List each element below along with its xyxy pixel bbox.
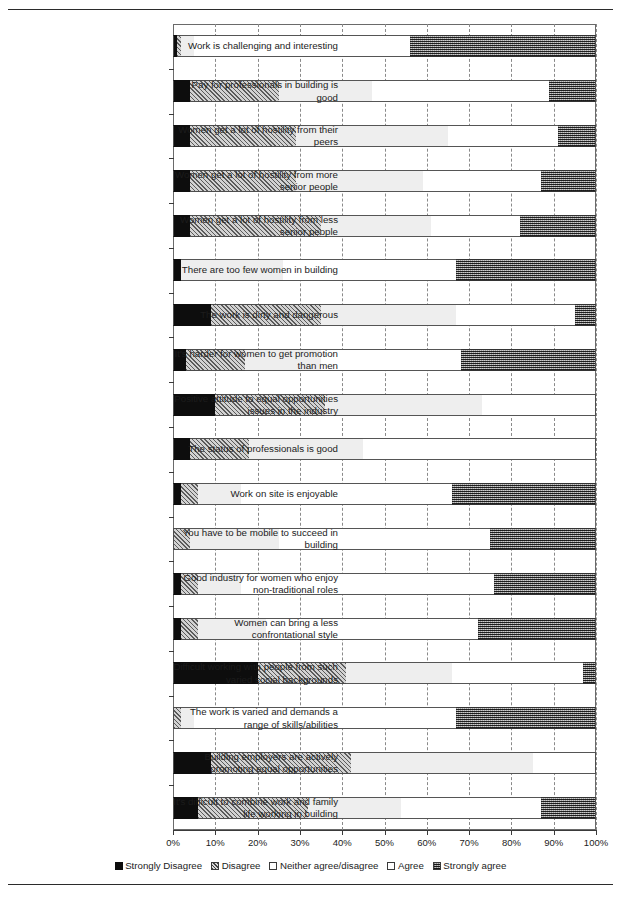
bar-segment-sa [478, 618, 596, 640]
y-axis-tick [169, 248, 174, 249]
legend-label: Strongly agree [443, 860, 506, 871]
legend-label: Agree [398, 860, 424, 871]
legend-item: Strongly Disagree [115, 860, 203, 871]
x-axis-tick [215, 830, 216, 835]
bar-segment-nt [351, 752, 533, 774]
bar-segment-sa [583, 662, 596, 684]
x-axis-tick [300, 830, 301, 835]
x-axis-tick-label: 100% [584, 837, 608, 848]
legend-item: Neither agree/disagree [269, 860, 378, 871]
y-axis-tick [169, 114, 174, 115]
legend-item: Agree [387, 860, 423, 871]
bar-segment-sa [558, 125, 596, 147]
x-axis-tick [427, 830, 428, 835]
category-label: Women get a lot of hostility from their … [173, 123, 338, 148]
stacked-bar-chart: 0%10%20%30%40%50%60%70%80%90%100% Work i… [173, 24, 596, 830]
bar-segment-sa [490, 528, 596, 550]
y-axis-tick [169, 158, 174, 159]
bar-segment-sa [549, 80, 596, 102]
bar-segment-sa [541, 170, 596, 192]
category-label: It's harder for women to get promotion t… [173, 347, 338, 372]
x-axis-tick [258, 830, 259, 835]
y-axis-tick [169, 293, 174, 294]
bar-segment-nt [346, 662, 452, 684]
x-axis-tick-label: 0% [166, 837, 180, 848]
bar-segment-sa [575, 304, 596, 326]
x-axis-tick-label: 50% [375, 837, 394, 848]
category-label: Good industry for women who enjoy non-tr… [173, 571, 338, 596]
x-axis-tick [173, 830, 174, 835]
bar-segment-ag [482, 394, 596, 416]
x-axis-tick [469, 830, 470, 835]
x-axis-tick-label: 40% [333, 837, 352, 848]
legend-item: Disagree [211, 860, 260, 871]
y-axis-tick [169, 517, 174, 518]
bar-segment-sa [520, 215, 596, 237]
y-axis-tick [169, 651, 174, 652]
legend-label: Strongly Disagree [125, 860, 202, 871]
gridline [596, 24, 597, 830]
y-axis-tick [169, 69, 174, 70]
y-axis-tick [169, 785, 174, 786]
bar-segment-ag [321, 349, 461, 371]
x-axis-tick-label: 80% [502, 837, 521, 848]
bar-segment-ag [533, 752, 596, 774]
figure-page: 0%10%20%30%40%50%60%70%80%90%100% Work i… [0, 0, 621, 902]
bar-segment-sa [410, 35, 596, 57]
legend-swatch-dg-icon [211, 862, 219, 870]
legend-label: Neither agree/disagree [280, 860, 379, 871]
y-axis-tick [169, 337, 174, 338]
x-axis-tick [385, 830, 386, 835]
bar-segment-sa [461, 349, 596, 371]
top-divider-rule [8, 9, 613, 10]
y-axis-tick [169, 696, 174, 697]
y-axis-tick [169, 203, 174, 204]
legend-swatch-nt-icon [269, 862, 277, 870]
category-label: Work is challenging and interesting [173, 40, 338, 53]
bar-segment-nt [321, 304, 456, 326]
bar-segment-ag [372, 80, 550, 102]
bar-segment-sa [456, 707, 596, 729]
bar-segment-ag [423, 170, 541, 192]
bar-segment-sa [456, 259, 596, 281]
x-axis-tick [596, 830, 597, 835]
category-label: The work is dirty and dangerous [173, 309, 338, 322]
x-axis-tick-label: 70% [460, 837, 479, 848]
category-label: The work is varied and demands a range o… [173, 706, 338, 731]
category-label: Positive attitude to equal opportunities… [173, 392, 338, 417]
x-axis-tick-label: 30% [290, 837, 309, 848]
legend-swatch-ag-icon [387, 862, 395, 870]
bar-segment-sa [541, 797, 596, 819]
category-label: Women can bring a less confrontational s… [173, 616, 338, 641]
legend-swatch-sd-icon [115, 862, 123, 870]
bar-segment-nt [325, 394, 482, 416]
x-axis-tick [342, 830, 343, 835]
category-label: You have to be mobile to succeed in buil… [173, 526, 338, 551]
bar-segment-ag [431, 215, 520, 237]
bar-segment-sa [452, 483, 596, 505]
legend-label: Disagree [222, 860, 261, 871]
y-axis-tick [169, 561, 174, 562]
y-axis-tick [169, 740, 174, 741]
category-label: The status of professionals is good [173, 443, 338, 456]
category-label: Women get a lot of hostility from less s… [173, 213, 338, 238]
chart-legend: Strongly DisagreeDisagreeNeither agree/d… [0, 860, 621, 871]
legend-item: Strongly agree [433, 860, 507, 871]
bar-segment-ag [363, 438, 596, 460]
x-axis-tick [511, 830, 512, 835]
x-axis-tick-label: 90% [544, 837, 563, 848]
category-label: Building employers are actively promotin… [173, 750, 338, 775]
bar-segment-ag [456, 304, 574, 326]
category-label: There are too few women in building [173, 264, 338, 277]
x-axis-tick-label: 20% [248, 837, 267, 848]
bar-segment-sa [494, 573, 596, 595]
bar-segment-ag [448, 125, 558, 147]
bar-segment-ag [452, 662, 583, 684]
y-axis-tick [169, 606, 174, 607]
category-label: Difficult working with people from such … [173, 661, 338, 686]
category-label: Pay for professionals in building is goo… [173, 79, 338, 104]
category-label: Work on site is enjoyable [173, 488, 338, 501]
y-axis-tick [169, 472, 174, 473]
category-label: Women get a lot of hostility from more s… [173, 168, 338, 193]
category-label: It's difficult to combine work and famil… [173, 795, 338, 820]
